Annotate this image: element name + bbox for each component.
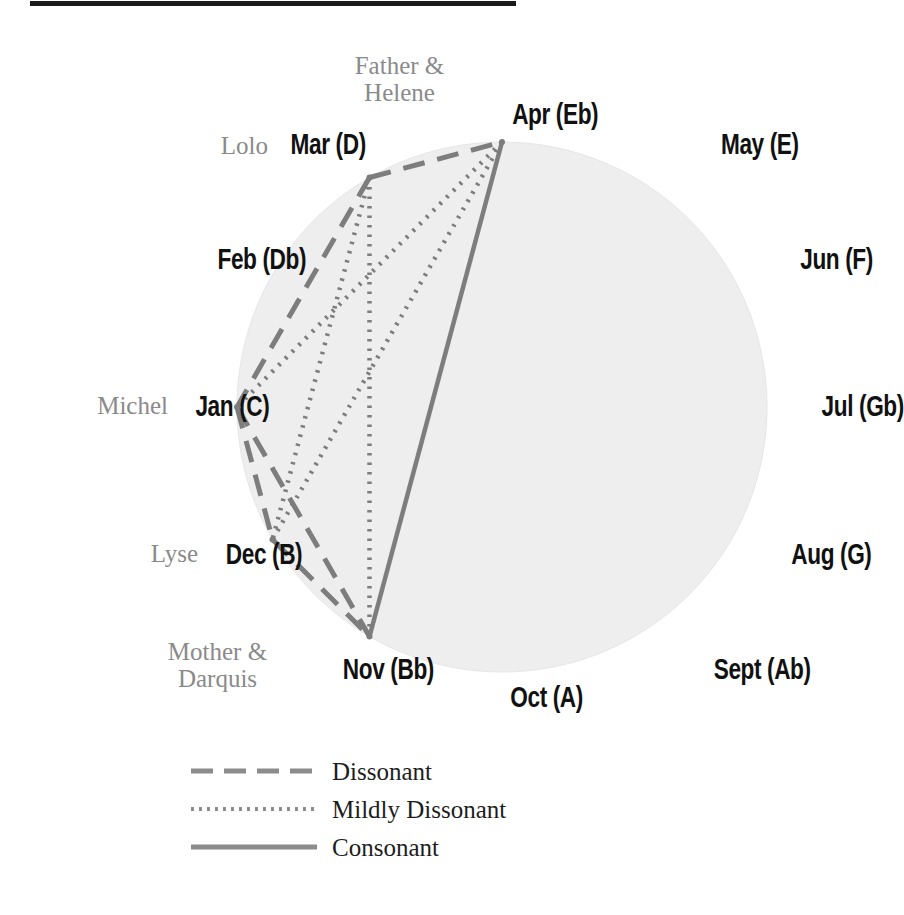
character-label-lolo: Lolo xyxy=(178,132,268,159)
character-label-father-helene: Father & Helene xyxy=(322,52,477,106)
legend: Dissonant Mildly Dissonant Consonant xyxy=(190,752,650,866)
node-label-nov: Nov (Bb) xyxy=(343,655,434,684)
node-label-sept: Sept (Ab) xyxy=(714,655,811,684)
node-point-mar xyxy=(367,175,373,181)
node-point-nov xyxy=(367,633,373,639)
node-label-jan: Jan (C) xyxy=(195,392,269,421)
character-label-michel: Michel xyxy=(48,392,168,419)
node-label-oct: Oct (A) xyxy=(510,683,583,712)
legend-label-consonant: Consonant xyxy=(332,835,439,860)
node-label-apr: Apr (Eb) xyxy=(512,100,598,129)
legend-item-mildly-dissonant: Mildly Dissonant xyxy=(190,790,650,828)
node-label-dec: Dec (B) xyxy=(226,540,302,569)
character-label-mother-darquis: Mother & Darquis xyxy=(120,638,315,692)
node-label-mar: Mar (D) xyxy=(291,130,366,159)
character-label-lyse: Lyse xyxy=(98,540,198,567)
node-point-apr xyxy=(499,139,505,145)
legend-swatch-dotted xyxy=(190,802,318,816)
legend-swatch-dashed xyxy=(190,764,318,778)
legend-item-dissonant: Dissonant xyxy=(190,752,650,790)
node-label-may: May (E) xyxy=(721,130,799,159)
node-label-aug: Aug (G) xyxy=(791,540,871,569)
legend-swatch-solid xyxy=(190,840,318,854)
node-label-jun: Jun (F) xyxy=(800,245,873,274)
chromatic-circle xyxy=(237,142,767,672)
node-label-jul: Jul (Gb) xyxy=(822,392,904,421)
node-label-feb: Feb (Db) xyxy=(217,245,306,274)
legend-item-consonant: Consonant xyxy=(190,828,650,866)
legend-label-dissonant: Dissonant xyxy=(332,759,432,784)
legend-label-mildly-dissonant: Mildly Dissonant xyxy=(332,797,506,822)
